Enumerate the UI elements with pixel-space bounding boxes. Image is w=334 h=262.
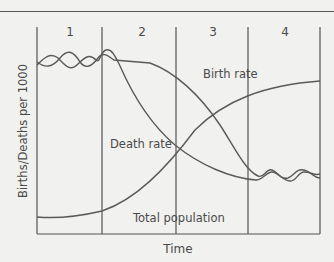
axes bbox=[37, 27, 320, 234]
birth-rate-label: Birth rate bbox=[203, 67, 258, 81]
demographic-transition-diagram: 1 2 3 4 Birth rate Death rate Total popu… bbox=[0, 0, 334, 262]
x-axis-label: Time bbox=[162, 242, 192, 256]
stage-label-3: 3 bbox=[209, 25, 217, 39]
total-population-label: Total population bbox=[132, 211, 225, 225]
birth-rate-curve bbox=[37, 52, 320, 178]
stage-label-4: 4 bbox=[281, 25, 289, 39]
total-population-curve bbox=[37, 81, 320, 218]
stage-label-2: 2 bbox=[138, 25, 146, 39]
death-rate-label: Death rate bbox=[110, 137, 172, 151]
stage-label-1: 1 bbox=[66, 25, 74, 39]
y-axis-label: Births/Deaths per 1000 bbox=[16, 64, 30, 198]
death-rate-curve bbox=[37, 50, 320, 181]
